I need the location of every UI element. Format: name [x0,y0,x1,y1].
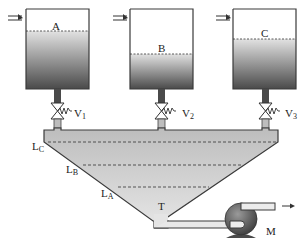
tank-a-label: A [52,20,60,32]
process-diagram: A V1 B V2 C V3 [0,0,306,246]
tank-a: A V1 [8,9,89,128]
valve-v3-label: V3 [285,107,297,121]
level-lc-label: LC [32,140,44,154]
valve-v3-icon [259,103,272,111]
outflow-arrow-icon [290,204,295,209]
tank-b-label: B [158,42,165,54]
valve-v1-icon [51,103,64,111]
inlet-arrow-icon [18,14,23,20]
tank-c-label: C [261,27,268,39]
tank-b: B V2 [113,9,194,128]
valve-v2-icon [155,103,168,111]
valve-v1-label: V1 [74,107,86,121]
inlet-arrow-icon [123,14,128,20]
pump-label: M [266,225,276,237]
outlet-t-label: T [158,200,165,212]
pump-m: M [225,203,295,238]
valve-v2-label: V2 [182,107,194,121]
tank-c: C V3 [216,9,297,128]
inlet-arrow-icon [226,14,231,20]
